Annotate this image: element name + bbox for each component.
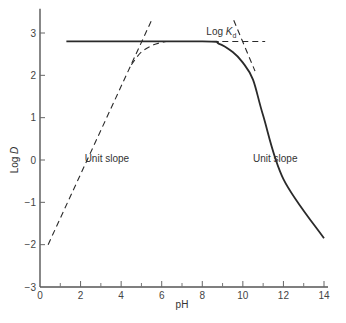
y-axis: −3−2−10123 bbox=[25, 9, 45, 293]
y-axis-title-d: D bbox=[9, 147, 20, 154]
x-tick-label: 14 bbox=[318, 290, 330, 301]
chart-annotation: Unit slope bbox=[253, 153, 298, 164]
x-tick-label: 8 bbox=[200, 290, 206, 301]
y-tick-label: 0 bbox=[30, 155, 36, 166]
x-tick-label: 10 bbox=[237, 290, 249, 301]
x-tick-label: 12 bbox=[278, 290, 290, 301]
x-axis-title: pH bbox=[176, 299, 189, 310]
x-tick-label: 2 bbox=[78, 290, 84, 301]
x-tick-label: 6 bbox=[159, 290, 165, 301]
y-tick-label: 1 bbox=[30, 112, 36, 123]
y-axis-title-log: Log bbox=[9, 154, 20, 173]
series-line bbox=[66, 41, 324, 238]
y-tick-label: −1 bbox=[25, 197, 37, 208]
y-axis-title: Log D bbox=[9, 147, 20, 174]
chart-annotation: Unit slope bbox=[85, 153, 130, 164]
y-tick-label: −3 bbox=[25, 282, 37, 293]
y-tick-label: 2 bbox=[30, 70, 36, 81]
x-tick-label: 4 bbox=[118, 290, 124, 301]
y-tick-label: 3 bbox=[30, 28, 36, 39]
y-tick-label: −2 bbox=[25, 239, 37, 250]
chart-annotation: Log Kd bbox=[206, 26, 236, 39]
plot-series bbox=[48, 20, 324, 244]
x-tick-label: 0 bbox=[37, 290, 43, 301]
series-line bbox=[48, 20, 151, 244]
chart-canvas: −3−2−10123 02468101214 Log KdUnit slopeU… bbox=[0, 0, 346, 323]
x-axis: 02468101214 bbox=[37, 281, 330, 301]
